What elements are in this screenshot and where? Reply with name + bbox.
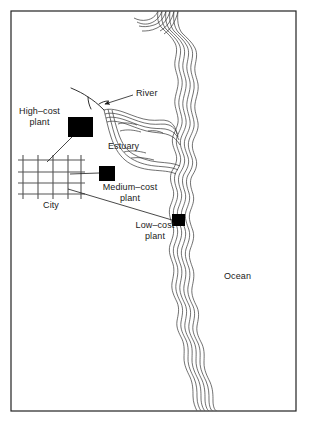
label-ocean: Ocean	[224, 271, 264, 282]
label-low-cost-plant: Low–cost plant	[128, 220, 182, 241]
map-canvas	[0, 0, 311, 425]
label-city: City	[34, 200, 68, 211]
label-high-cost-plant: High–cost plant	[13, 106, 66, 127]
coastal-plant-siting-figure: River Estuary Ocean City High–cost plant…	[0, 0, 311, 425]
label-estuary: Estuary	[108, 141, 152, 152]
label-river: River	[136, 88, 176, 99]
label-medium-cost-plant: Medium–cost plant	[97, 182, 163, 203]
medium-cost-plant-marker	[99, 166, 115, 181]
high-cost-plant-marker	[68, 117, 93, 137]
figure-border	[11, 11, 296, 411]
